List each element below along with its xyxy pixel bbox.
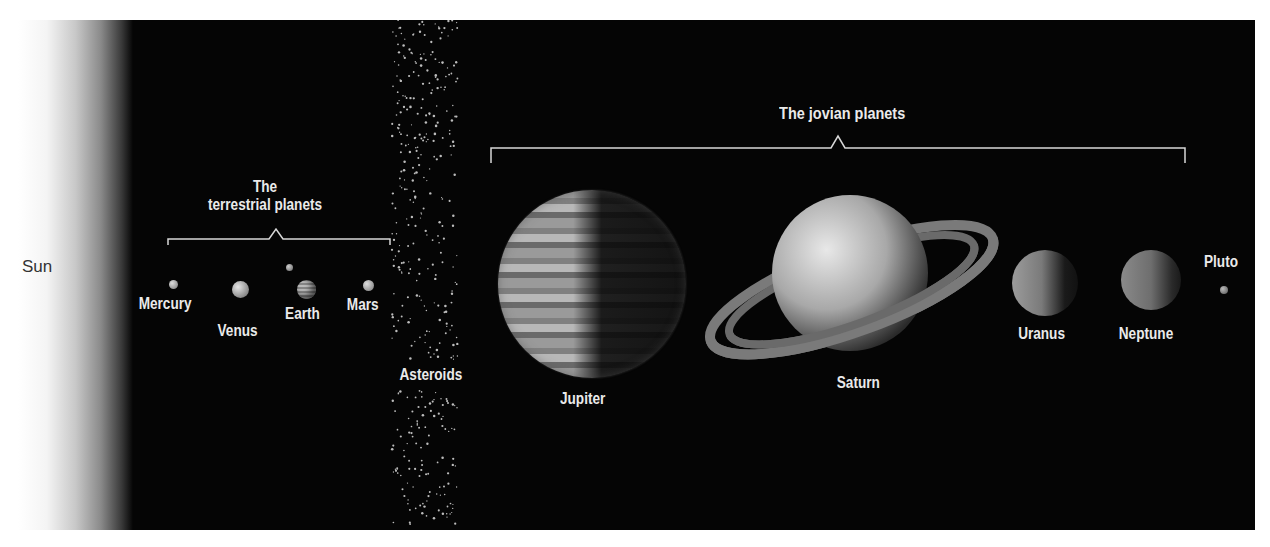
jupiter-label: Jupiter (560, 390, 605, 408)
saturn-label: Saturn (837, 374, 880, 392)
venus-planet (232, 281, 249, 298)
uranus-label: Uranus (1018, 325, 1065, 343)
saturn-planet (695, 195, 1005, 365)
uranus-planet (1012, 250, 1078, 316)
mars-label: Mars (347, 296, 379, 314)
venus-label: Venus (218, 322, 258, 340)
neptune-planet (1121, 250, 1181, 310)
asteroid-belt (380, 20, 470, 530)
jupiter-planet (498, 190, 686, 378)
pluto-label: Pluto (1204, 253, 1238, 271)
earth-label: Earth (285, 305, 320, 323)
moon (286, 264, 293, 271)
terrestrial-title-line2: terrestrial planets (189, 196, 342, 214)
sun-label: Sun (22, 257, 52, 277)
pluto-planet (1220, 286, 1228, 294)
terrestrial-bracket (165, 222, 395, 246)
jovian-bracket (488, 128, 1190, 164)
jovian-group-title: The jovian planets (779, 104, 905, 124)
neptune-label: Neptune (1119, 325, 1173, 343)
earth-planet (297, 280, 316, 299)
terrestrial-title-line1: The (189, 178, 342, 196)
asteroids-label: Asteroids (400, 366, 463, 384)
mars-planet (363, 280, 374, 291)
mercury-label: Mercury (139, 295, 192, 313)
terrestrial-group-title: The terrestrial planets (189, 178, 342, 214)
mercury-planet (169, 280, 178, 289)
